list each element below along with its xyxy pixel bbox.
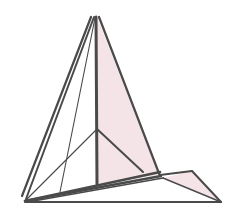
edge-base-band-2 [25, 176, 161, 201]
shaded-face-flap [163, 171, 221, 201]
polyhedron-diagram [0, 0, 250, 222]
edge-apex-thin [60, 18, 95, 192]
edge-spine [96, 17, 97, 184]
edge-apex-left-inner [26, 17, 94, 199]
